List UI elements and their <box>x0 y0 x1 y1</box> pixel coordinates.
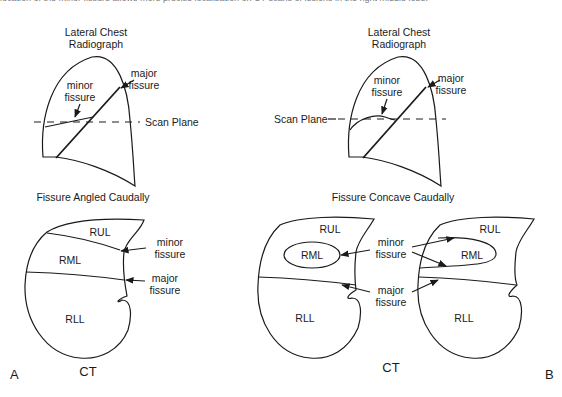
radiograph-title-b-2: Radiograph <box>372 38 426 50</box>
minor-fissure-arrow-ct-b-right-lower <box>412 252 446 266</box>
lobe-rml-b-right: RML <box>461 249 483 261</box>
panel-b-ct-left: RUL RML RLL <box>258 217 374 358</box>
major-fissure-label-b-1: major <box>438 72 465 84</box>
panel-a-ct: RUL RML RLL minor fissure major fissure … <box>25 219 186 379</box>
major-fissure-ct-a <box>26 272 124 280</box>
minor-fissure-label-ct-a-1: minor <box>157 236 184 248</box>
minor-fissure-line-b <box>350 116 395 130</box>
subtitle-a: Fissure Angled Caudally <box>36 191 150 203</box>
scan-plane-label-a: Scan Plane <box>145 116 199 128</box>
ct-label-b: CT <box>382 360 399 375</box>
lobe-rll-b-right: RLL <box>454 312 473 324</box>
panel-a-radiograph: Lateral Chest Radiograph Scan Plane mino… <box>34 26 199 186</box>
minor-fissure-arrow-ct-b-right-upper <box>412 238 454 247</box>
lobe-rul-a: RUL <box>89 226 110 238</box>
minor-fissure-label-ct-b-1: minor <box>378 236 405 248</box>
panel-label-a: A <box>10 367 19 382</box>
lobe-rll-b-left: RLL <box>295 312 314 324</box>
ct-outline-b-left <box>258 217 374 358</box>
scan-plane-label-b: Scan Plane <box>274 113 328 125</box>
minor-fissure-label-a-2: fissure <box>65 91 96 103</box>
lobe-rml-a: RML <box>59 254 81 266</box>
lung-fissure-diagram: Lateral Chest Radiograph Scan Plane mino… <box>0 0 562 397</box>
minor-fissure-label-ct-a-2: fissure <box>155 248 186 260</box>
major-fissure-label-ct-b-1: major <box>378 284 405 296</box>
major-fissure-arrow-ct-b-right <box>412 280 438 292</box>
lobe-rul-b-right: RUL <box>479 223 500 235</box>
panel-b-ct-shared-labels: minor fissure major fissure CT <box>341 236 454 375</box>
major-fissure-label-b-2: fissure <box>436 84 467 96</box>
panel-b-radiograph: Lateral Chest Radiograph Scan Plane mino… <box>274 26 467 186</box>
lobe-rul-b-left: RUL <box>319 223 340 235</box>
lobe-rll-a: RLL <box>65 313 84 325</box>
minor-fissure-label-b-1: minor <box>374 74 401 86</box>
minor-fissure-label-a-1: minor <box>67 79 94 91</box>
major-fissure-label-ct-b-2: fissure <box>376 296 407 308</box>
minor-fissure-label-ct-b-2: fissure <box>376 248 407 260</box>
major-fissure-ct-b-right <box>419 277 516 285</box>
panel-label-b: B <box>545 367 554 382</box>
minor-fissure-label-b-2: fissure <box>372 86 403 98</box>
radiograph-title-a-1: Lateral Chest <box>65 26 128 38</box>
major-fissure-label-ct-a-1: major <box>152 272 179 284</box>
major-fissure-label-ct-a-2: fissure <box>150 284 181 296</box>
subtitle-b: Fissure Concave Caudally <box>332 191 455 203</box>
major-fissure-arrow-ct-a <box>126 280 145 281</box>
lobe-rml-b-left: RML <box>301 249 323 261</box>
major-fissure-label-a-1: major <box>131 67 158 79</box>
radiograph-title-a-2: Radiograph <box>69 38 123 50</box>
rml-region-b-right <box>420 238 496 268</box>
minor-fissure-arrow-a <box>75 104 80 117</box>
major-fissure-ct-b-left <box>258 277 356 285</box>
minor-fissure-arrow-b <box>382 99 387 114</box>
ct-label-a: CT <box>79 364 96 379</box>
radiograph-title-b-1: Lateral Chest <box>368 26 431 38</box>
ct-outline-b-right <box>418 217 534 358</box>
panel-b-ct-right: RUL RML RLL <box>418 217 534 358</box>
